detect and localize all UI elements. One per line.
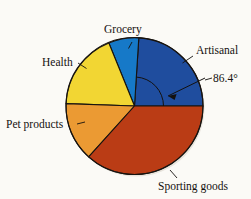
pie-chart-figure: Grocery Artisanal 86.4° Health Pet produ… [0, 0, 251, 199]
label-sporting-goods: Sporting goods [158, 180, 228, 193]
label-grocery: Grocery [104, 23, 142, 36]
pie-chart-svg: Grocery Artisanal 86.4° Health Pet produ… [0, 0, 251, 199]
label-angle-measure: 86.4° [213, 72, 238, 84]
label-pet-products: Pet products [6, 118, 64, 131]
label-health: Health [42, 56, 73, 68]
label-artisanal: Artisanal [196, 44, 238, 56]
